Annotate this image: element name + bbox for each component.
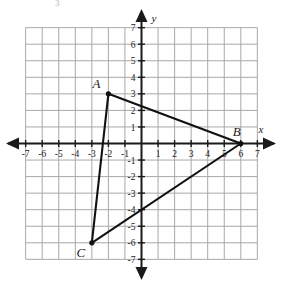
y-axis-arrow-down-icon [136,267,148,280]
x-tick-label: 3 [189,149,194,159]
triangle-edge [92,94,109,243]
y-axis-name-label: y [151,12,157,24]
y-tick-label: 5 [131,56,136,66]
axis-lines [6,9,276,280]
vertex-dot [238,141,243,146]
coordinate-plane-figure: 3 -7-6-5-4-3-2-11234567 7654321-1-2-3-4-… [0,0,282,286]
y-axis-arrow-up-icon [136,9,148,22]
x-tick-label: 6 [238,149,243,159]
coordinate-plane-svg: -7-6-5-4-3-2-11234567 7654321-1-2-3-4-5-… [0,0,282,286]
x-tick-label: -6 [38,149,46,159]
x-axis-name-label: x [258,123,264,135]
vertex-dot [106,91,111,96]
y-tick-label: 6 [131,40,136,50]
triangle-vertex-dots [89,91,243,245]
vertex-dot [89,240,94,245]
vertex-label-a: A [91,76,100,91]
y-tick-label: -7 [128,255,136,265]
vertex-label-b: B [233,124,241,139]
x-tick-label: 1 [156,149,161,159]
x-axis-arrow-left-icon [6,138,19,150]
x-tick-label: 2 [172,149,177,159]
x-tick-label: -5 [55,149,63,159]
y-tick-label: -5 [128,222,136,232]
vertex-label-c: C [77,245,86,260]
x-tick-label: -7 [22,149,30,159]
x-tick-label: -4 [71,149,79,159]
y-tick-label: -3 [128,189,136,199]
y-tick-label: -2 [128,172,136,182]
y-tick-label: 3 [131,89,136,99]
x-tick-label: 4 [205,149,210,159]
y-tick-label: -1 [128,156,136,166]
y-tick-label: 2 [131,106,136,116]
x-axis-arrow-right-icon [263,138,276,150]
y-tick-label: 7 [131,23,136,33]
y-tick-label: 1 [131,123,136,133]
y-tick-label: 4 [131,73,136,83]
x-tick-label: -3 [88,149,96,159]
x-tick-label: -2 [104,149,112,159]
y-tick-label: -6 [128,238,136,248]
triangle-edges [92,94,241,243]
x-tick-label: 7 [255,149,260,159]
